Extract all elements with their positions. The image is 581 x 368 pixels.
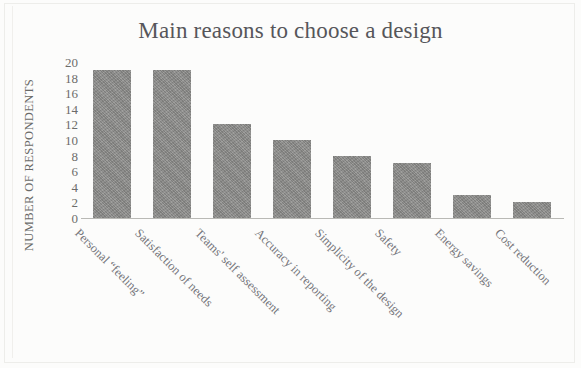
y-tick-14: 14 [52,103,78,116]
chart-page: Main reasons to choose a design NUMBER O… [0,0,581,368]
y-tick-16: 16 [52,87,78,100]
y-tick-20: 20 [52,56,78,69]
y-tick-12: 12 [52,118,78,131]
bar [453,195,491,218]
y-tick-8: 8 [52,150,78,163]
bar [333,156,371,218]
y-tick-2: 2 [52,196,78,209]
bar [213,124,251,218]
bar [393,163,431,218]
y-tick-10: 10 [52,134,78,147]
y-tick-4: 4 [52,181,78,194]
y-tick-18: 18 [52,72,78,85]
chart-title: Main reasons to choose a design [0,18,581,44]
x-tick-label: Energy savings [431,226,496,291]
plot-area [82,62,562,218]
bar [513,202,551,218]
x-tick-label: Safety [371,226,404,259]
bar [153,70,191,218]
y-axis-tick-labels: 20181614121086420 [52,56,78,224]
bar [273,140,311,218]
x-axis-tick-labels: Personal “feeling”Satisfaction of needsT… [0,218,581,368]
y-tick-6: 6 [52,165,78,178]
x-tick-label: Cost reduction [491,226,553,288]
bar [93,70,131,218]
